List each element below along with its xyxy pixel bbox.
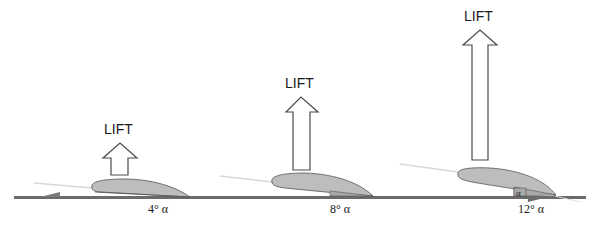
angle-marker-alpha: α	[516, 188, 521, 198]
panel-8-degrees: LIFT 8° α	[220, 75, 373, 216]
lift-arrow-icon	[103, 143, 137, 175]
lift-label: LIFT	[464, 8, 493, 24]
airflow-line	[220, 176, 272, 182]
panel-12-degrees: α LIFT 12° α	[400, 8, 580, 216]
angle-of-attack-diagram: LIFT 4° α LIFT 8° α α LIFT 12° α	[0, 0, 597, 227]
airflow-line	[34, 183, 92, 188]
airfoil-shape	[272, 173, 373, 196]
airflow-line	[400, 164, 458, 172]
lift-label: LIFT	[285, 75, 314, 91]
lift-arrow-icon	[463, 30, 497, 160]
airfoil-shape	[458, 168, 556, 195]
angle-label: 12° α	[518, 202, 545, 216]
lift-arrow-icon	[286, 97, 318, 170]
angle-label: 8° α	[330, 202, 351, 216]
angle-label: 4° α	[148, 202, 169, 216]
relative-wind-arrowhead	[40, 192, 60, 197]
panel-4-degrees: LIFT 4° α	[34, 121, 190, 216]
lift-label: LIFT	[104, 121, 133, 137]
